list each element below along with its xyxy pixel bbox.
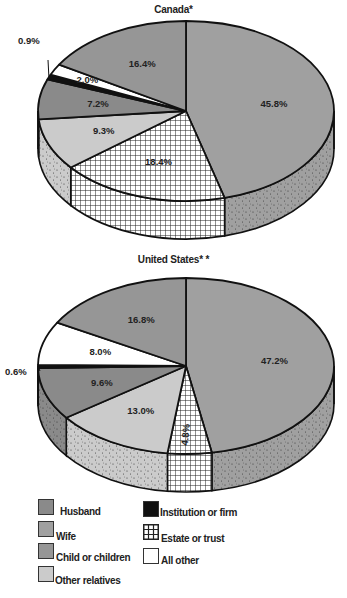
slice-label: 16.4%: [129, 58, 156, 69]
institution-swatch: [143, 501, 159, 517]
slice-label: 8.0%: [89, 346, 111, 357]
legend-label: Estate or trust: [161, 533, 224, 544]
legend-label: Husband: [60, 506, 101, 517]
slice-label: 4.8%: [179, 423, 192, 446]
slice-label: 0.6%: [5, 366, 27, 377]
slice-label: 7.2%: [87, 98, 109, 109]
slice-label: 13.0%: [127, 405, 154, 416]
wife-swatch: [38, 521, 54, 537]
all-other-swatch: [143, 548, 159, 564]
legend-label: Institution or firm: [160, 507, 237, 518]
legend-label: Wife: [56, 531, 76, 542]
canada-pie: 45.8%18.4%9.3%7.2%0.9%2.0%16.4%: [18, 21, 334, 239]
slice-label: 9.6%: [91, 377, 113, 388]
legend-item-estate: Estate or trust: [143, 524, 224, 540]
estate-swatch: [143, 524, 159, 540]
pie-side-wall: [167, 453, 211, 492]
legend-item-wife: Wife: [38, 521, 76, 537]
slice-label: 45.8%: [261, 98, 288, 109]
other-relatives-swatch: [38, 566, 54, 582]
slice-label: 16.8%: [128, 314, 155, 325]
husband-swatch: [38, 499, 54, 515]
legend-item-all-other: All other: [143, 548, 199, 564]
slice-label: 47.2%: [261, 355, 288, 366]
legend-label: All other: [161, 555, 199, 566]
legend-item-institution: Institution or firm: [143, 501, 237, 517]
legend-label: Other relatives: [55, 575, 121, 586]
slice-label: 2.0%: [77, 74, 99, 85]
child-swatch: [38, 543, 54, 559]
slice-label: 9.3%: [93, 125, 115, 136]
slice-label: 0.9%: [18, 35, 40, 46]
slice-label: 18.4%: [145, 156, 172, 167]
legend-label: Child or children: [56, 552, 130, 563]
legend-item-other-relatives: Other relatives: [38, 566, 121, 582]
legend-item-husband: Husband: [38, 499, 101, 515]
us-pie: 47.2%4.8%13.0%9.6%0.6%8.0%16.8%: [5, 278, 334, 492]
legend-item-child: Child or children: [38, 543, 130, 559]
